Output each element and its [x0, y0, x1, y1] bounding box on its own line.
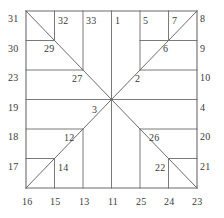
region-label-15: 15 — [50, 197, 60, 207]
region-label-17: 17 — [8, 162, 18, 172]
region-label-2: 2 — [135, 74, 140, 84]
region-label-13: 13 — [79, 197, 89, 207]
region-label-29: 29 — [44, 44, 54, 54]
region-label-33: 33 — [86, 16, 96, 26]
region-label-27: 27 — [72, 74, 82, 84]
region-label-31: 31 — [8, 14, 18, 24]
region-label-24: 24 — [164, 197, 174, 207]
diagonal-center-to-top-right — [112, 11, 198, 100]
region-label-7: 7 — [172, 16, 177, 26]
region-label-23: 23 — [8, 73, 18, 83]
region-label-32: 32 — [58, 16, 68, 26]
diagonal-bottom-left-to-center — [26, 100, 112, 189]
region-label-10: 10 — [200, 73, 210, 83]
region-label-12: 12 — [64, 133, 74, 143]
region-label-21: 21 — [200, 162, 210, 172]
diagonal-center-to-bottom-right — [112, 100, 198, 189]
region-label-6: 6 — [163, 44, 168, 54]
region-label-26: 26 — [149, 133, 159, 143]
region-label-30: 30 — [8, 44, 18, 54]
region-label-3: 3 — [92, 105, 97, 115]
region-label-18: 18 — [8, 132, 18, 142]
region-label-11: 11 — [108, 197, 118, 207]
region-label-9: 9 — [200, 44, 205, 54]
region-label-20: 20 — [200, 132, 210, 142]
diagram-canvas — [0, 0, 224, 218]
diagonal-top-left-to-center — [26, 11, 112, 100]
region-label-23: 23 — [192, 197, 202, 207]
region-label-8: 8 — [200, 14, 205, 24]
region-label-25: 25 — [136, 197, 146, 207]
region-label-16: 16 — [22, 197, 32, 207]
region-label-4: 4 — [200, 103, 205, 113]
geometric-diagram: 3132331578302319181791042021161513112524… — [0, 0, 224, 218]
region-label-5: 5 — [143, 16, 148, 26]
region-label-22: 22 — [155, 163, 165, 173]
region-label-14: 14 — [58, 163, 68, 173]
region-label-1: 1 — [115, 16, 120, 26]
region-label-19: 19 — [8, 103, 18, 113]
